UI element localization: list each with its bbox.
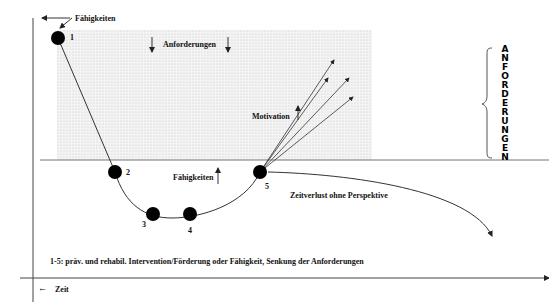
node-2-label: 2 — [126, 168, 130, 177]
vertical-demands-label: ANFORDERUNGEN — [500, 44, 509, 161]
time-loss-label: Zeitverlust ohne Perspektive — [290, 191, 388, 200]
demands-region — [57, 30, 372, 160]
legend-text: 1-5: präv. und rehabil. Intervention/För… — [50, 257, 364, 266]
top-left-ability-label: Fähigkeiten — [75, 14, 115, 23]
node-1-label: 1 — [70, 33, 74, 42]
node-3 — [146, 207, 160, 221]
pointer-to-node1 — [60, 18, 72, 28]
time-axis-left-arrow-icon: ← — [38, 283, 47, 293]
node-5 — [253, 165, 267, 179]
node-1 — [51, 31, 65, 45]
demands-brace — [482, 48, 492, 158]
motivation-label: Motivation — [252, 112, 290, 121]
node-2 — [108, 165, 122, 179]
node-3-label: 3 — [142, 220, 146, 229]
node-4-label: 4 — [188, 226, 192, 235]
demands-label: Anforderungen — [163, 40, 216, 49]
time-loss-curve — [268, 172, 492, 236]
ability-up-label: Fähigkeiten — [173, 173, 213, 182]
node-5-label: 5 — [265, 182, 269, 191]
node-4 — [183, 207, 197, 221]
time-axis-label: Zeit — [55, 285, 69, 294]
